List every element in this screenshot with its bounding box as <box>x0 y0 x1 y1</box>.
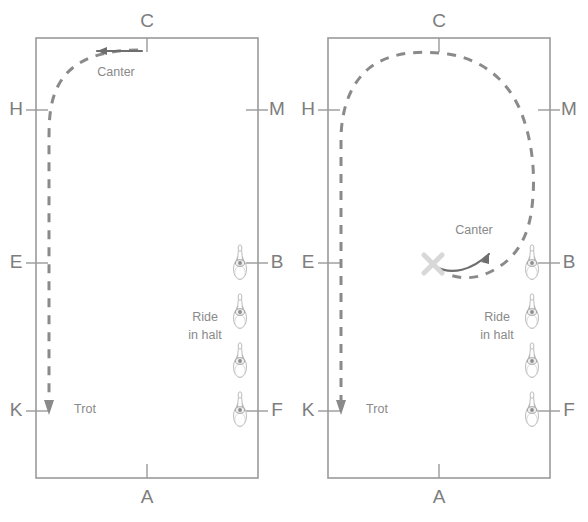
arena-letter-K: K <box>302 399 315 420</box>
path-arrowhead-trot-arrowhead <box>44 400 54 415</box>
path-arrowhead-trot-arrowhead <box>336 400 346 415</box>
halted-horse-horse-2 <box>234 294 247 329</box>
arena-letter-F: F <box>563 399 575 420</box>
arena-letter-B: B <box>563 251 576 272</box>
halted-horse-horse-4 <box>234 392 247 427</box>
arena-letter-H: H <box>301 98 315 119</box>
ride-in-halt-line2: in halt <box>480 328 514 342</box>
gait-label-canter: Canter <box>97 65 135 79</box>
right-dressage-arena: CAHEKMBFCanterTrotRidein halt <box>301 10 577 507</box>
ride-in-halt-line1: Ride <box>484 310 510 324</box>
arena-letter-E: E <box>10 251 23 272</box>
gait-label-canter: Canter <box>455 223 493 237</box>
ride-in-halt-line2: in halt <box>188 328 222 342</box>
arena-letter-A: A <box>141 486 154 507</box>
arena-letter-H: H <box>9 98 23 119</box>
gait-label-trot: Trot <box>366 402 388 416</box>
arena-letter-C: C <box>140 10 154 31</box>
halted-horse-horse-2 <box>526 294 539 329</box>
gait-label-trot: Trot <box>74 402 96 416</box>
x-centre-marker <box>424 255 442 273</box>
left-dressage-arena: CAHEKMBFCanterTrotRidein halt <box>9 10 285 507</box>
dressage-diagram-svg: CAHEKMBFCanterTrotRidein haltCAHEKMBFCan… <box>0 0 588 522</box>
arena-letter-M: M <box>269 98 285 119</box>
dashed-movement-path <box>341 52 534 404</box>
halted-horse-horse-1 <box>526 245 539 280</box>
diagram-stage: CAHEKMBFCanterTrotRidein haltCAHEKMBFCan… <box>0 0 588 522</box>
arena-letter-A: A <box>433 486 446 507</box>
halted-horse-horse-4 <box>526 392 539 427</box>
halted-horse-horse-3 <box>234 343 247 378</box>
dashed-movement-path <box>49 50 138 404</box>
ride-in-halt-line1: Ride <box>192 310 218 324</box>
halted-horse-horse-3 <box>526 343 539 378</box>
arena-letter-C: C <box>432 10 446 31</box>
halted-horse-horse-1 <box>234 245 247 280</box>
arena-letter-E: E <box>302 251 315 272</box>
arena-letter-M: M <box>561 98 577 119</box>
arena-letter-B: B <box>271 251 284 272</box>
arena-letter-F: F <box>271 399 283 420</box>
arena-letter-K: K <box>10 399 23 420</box>
panels-layer: CAHEKMBFCanterTrotRidein haltCAHEKMBFCan… <box>9 10 577 507</box>
arena-rectangle <box>36 38 258 478</box>
